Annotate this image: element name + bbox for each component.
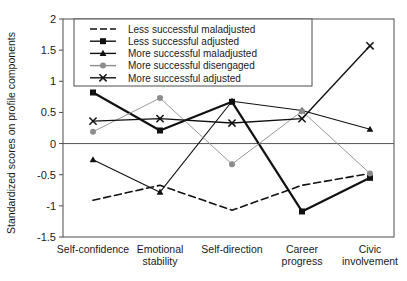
x-axis-category-label: Emotional [137, 243, 184, 255]
legend-item-label: More successful adjusted [128, 73, 241, 84]
x-axis-category-label: stability [142, 255, 178, 267]
legend-item-label: Less successful maladjusted [128, 24, 255, 35]
series-line [93, 173, 370, 210]
y-axis-ticks: 21.510.50-0.5-1-1.5 [37, 13, 63, 243]
data-point-circle [299, 108, 305, 114]
data-point-square [299, 208, 305, 214]
y-tick-label: 2 [50, 13, 56, 25]
data-point-circle [100, 63, 106, 69]
data-point-circle [90, 129, 96, 135]
x-axis-category-label: Career [286, 243, 319, 255]
x-axis-category-label: progress [282, 255, 323, 267]
data-point-square [90, 89, 96, 95]
data-point-circle [157, 95, 163, 101]
y-tick-label: 0.5 [41, 106, 56, 118]
legend-item-label: Less successful adjusted [128, 36, 239, 47]
data-point-circle [229, 161, 235, 167]
y-tick-label: 1 [50, 75, 56, 87]
chart-legend: Less successful maladjustedLess successf… [74, 19, 312, 86]
x-axis-category-label: involvement [342, 255, 398, 267]
x-axis-category-label: Self-direction [201, 243, 262, 255]
y-tick-label: 1.5 [41, 44, 56, 56]
y-tick-label: -0.5 [37, 169, 56, 181]
y-tick-label: -1 [46, 200, 56, 212]
line-chart: Standardized scores on profile component… [0, 0, 407, 281]
series-line [93, 92, 370, 211]
legend-item-label: More successful disengaged [128, 60, 255, 71]
x-axis-category-label: Self-confidence [57, 243, 130, 255]
x-axis-labels: Self-confidenceEmotionalstabilitySelf-di… [57, 243, 398, 267]
data-point-square [100, 38, 106, 44]
y-axis-title: Standardized scores on profile component… [5, 32, 17, 234]
data-point-square [157, 127, 163, 133]
legend-item-label: More successful maladjusted [128, 48, 257, 59]
y-tick-label: 0 [50, 138, 56, 150]
data-point-triangle [90, 156, 97, 162]
data-point-x [366, 42, 373, 49]
chart-container: Standardized scores on profile component… [0, 0, 407, 281]
y-tick-label: -1.5 [37, 231, 56, 243]
data-point-circle [367, 170, 373, 176]
x-axis-category-label: Civic [359, 243, 382, 255]
